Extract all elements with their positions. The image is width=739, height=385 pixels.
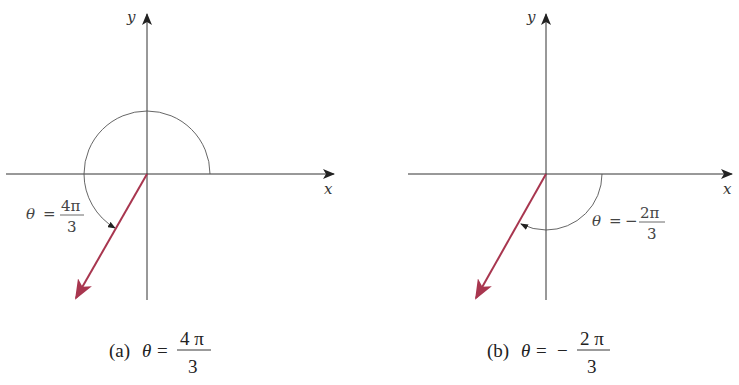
svg-text:=: = bbox=[157, 340, 168, 361]
angle-label: θ = 4π 3 bbox=[26, 197, 84, 236]
y-axis-label: y bbox=[526, 8, 536, 26]
svg-text:=: = bbox=[609, 212, 622, 230]
svg-text:−: − bbox=[557, 340, 568, 361]
svg-text:θ: θ bbox=[592, 212, 601, 230]
svg-text:3: 3 bbox=[587, 356, 597, 377]
svg-text:θ: θ bbox=[521, 340, 530, 361]
angle-diagrams: x y θ = 4π 3 (a) θ = 4 π 3 x y bbox=[0, 0, 739, 385]
svg-text:=: = bbox=[43, 205, 56, 223]
figure-b: x y θ = − 2π 3 (b) θ = − 2 π 3 bbox=[408, 8, 732, 377]
x-axis-label: x bbox=[723, 180, 732, 198]
svg-text:4 π: 4 π bbox=[180, 328, 204, 349]
angle-label: θ = − 2π 3 bbox=[592, 204, 665, 243]
svg-text:θ: θ bbox=[26, 205, 35, 223]
angle-arc bbox=[521, 174, 602, 230]
svg-text:(a): (a) bbox=[109, 340, 130, 362]
svg-text:3: 3 bbox=[188, 356, 198, 377]
y-axis-label: y bbox=[126, 8, 136, 26]
figure-a: x y θ = 4π 3 (a) θ = 4 π 3 bbox=[6, 8, 334, 377]
svg-text:(b): (b) bbox=[487, 340, 509, 362]
vector-arrow bbox=[476, 174, 546, 298]
svg-text:θ: θ bbox=[142, 340, 151, 361]
svg-text:−: − bbox=[625, 212, 638, 230]
svg-text:2 π: 2 π bbox=[580, 328, 604, 349]
svg-text:4π: 4π bbox=[61, 197, 81, 215]
caption-b: (b) θ = − 2 π 3 bbox=[487, 328, 610, 377]
svg-text:=: = bbox=[536, 340, 547, 361]
svg-text:2π: 2π bbox=[640, 204, 660, 222]
caption-a: (a) θ = 4 π 3 bbox=[109, 328, 211, 377]
x-axis-label: x bbox=[324, 180, 333, 198]
svg-text:3: 3 bbox=[67, 218, 77, 236]
svg-text:3: 3 bbox=[647, 225, 657, 243]
